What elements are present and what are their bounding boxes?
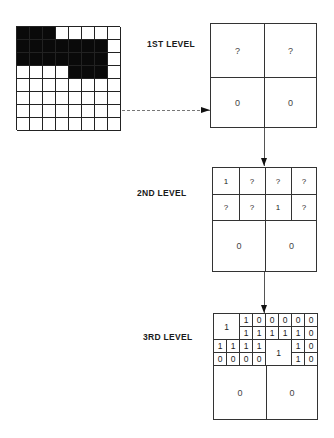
image-pixel [56, 79, 69, 92]
l3-cell: 1 [227, 340, 240, 353]
level-1-label: 1ST LEVEL [147, 39, 195, 49]
l3-cell: 0 [305, 353, 317, 366]
image-pixel [56, 40, 69, 53]
image-pixel [30, 66, 43, 79]
image-pixel [17, 40, 30, 53]
image-pixel [82, 40, 95, 53]
image-pixel [56, 105, 69, 118]
image-pixel [108, 66, 121, 79]
image-pixel [43, 27, 56, 40]
l1-cell-se: 0 [265, 78, 316, 127]
image-pixel [82, 79, 95, 92]
image-pixel [108, 105, 121, 118]
image-pixel [17, 105, 30, 118]
level-3-label: 3RD LEVEL [143, 332, 192, 342]
l2-cell-se: 0 [266, 220, 317, 271]
l3-cell: 0 [253, 353, 266, 366]
image-pixel [82, 118, 95, 131]
image-pixel [95, 66, 108, 79]
image-pixel [56, 66, 69, 79]
image-pixel [69, 105, 82, 118]
image-pixel [108, 27, 121, 40]
l2-cell: ? [265, 168, 291, 194]
image-pixel [56, 27, 69, 40]
image-pixel [95, 118, 108, 131]
image-pixel [30, 27, 43, 40]
image-pixel [17, 27, 30, 40]
image-pixel [17, 118, 30, 131]
image-pixel [95, 27, 108, 40]
l3-cell: 1 [279, 327, 292, 340]
l3-cell: 0 [292, 314, 305, 327]
l1-cell-nw: ? [211, 24, 264, 77]
l3-cell: 0 [240, 353, 253, 366]
image-pixel [30, 79, 43, 92]
image-pixel [43, 66, 56, 79]
l3-merged-cell: 1 [266, 340, 292, 366]
l2-cell: ? [239, 194, 265, 220]
image-pixel [108, 118, 121, 131]
l3-cell: 1 [292, 327, 305, 340]
l3-cell: 0 [279, 314, 292, 327]
l3-cell: 1 [240, 327, 253, 340]
level-1-quadtree: ? ? 0 0 [210, 23, 317, 128]
image-pixel [69, 118, 82, 131]
l3-cell: 1 [253, 340, 266, 353]
image-pixel [43, 40, 56, 53]
l3-cell: 1 [240, 314, 253, 327]
image-pixel [108, 40, 121, 53]
l3-cell: 0 [305, 327, 317, 340]
l3-cell: 1 [266, 327, 279, 340]
level-2-quadtree: 1 ? ? ? ? ? 1 ? 0 0 [212, 167, 317, 272]
image-pixel [69, 40, 82, 53]
image-pixel [69, 53, 82, 66]
level-2-label: 2ND LEVEL [137, 188, 186, 198]
image-pixel [82, 105, 95, 118]
level-3-quadtree: 1 1 1 0 1 1 0 0 1 1 0 0 1 0 1 1 0 0 1 1 … [213, 313, 318, 420]
image-pixel [69, 27, 82, 40]
image-pixel [69, 79, 82, 92]
arrow-down-icon [264, 128, 265, 166]
l3-cell: 0 [305, 314, 317, 327]
arrow-right-icon [122, 110, 210, 111]
image-pixel [108, 79, 121, 92]
image-pixel [82, 66, 95, 79]
l3-cell: 1 [214, 340, 227, 353]
l1-cell-sw: 0 [211, 78, 264, 127]
image-pixel [82, 53, 95, 66]
l3-cell: 0 [305, 340, 317, 353]
image-pixel [43, 105, 56, 118]
l3-cell: 0 [266, 314, 279, 327]
image-pixel [43, 79, 56, 92]
image-pixel [30, 40, 43, 53]
image-pixel [17, 79, 30, 92]
image-pixel [95, 92, 108, 105]
binary-image-grid [16, 26, 120, 130]
image-pixel [95, 53, 108, 66]
l2-cell: ? [213, 194, 239, 220]
l3-merged-cell: 1 [214, 314, 240, 340]
image-pixel [17, 53, 30, 66]
image-pixel [69, 92, 82, 105]
l3-cell: 0 [227, 353, 240, 366]
image-pixel [69, 66, 82, 79]
l2-cell: 1 [213, 168, 239, 194]
image-pixel [56, 92, 69, 105]
image-pixel [30, 105, 43, 118]
image-pixel [108, 92, 121, 105]
l2-cell: ? [239, 168, 265, 194]
l3-cell: 1 [253, 327, 266, 340]
image-pixel [30, 53, 43, 66]
l3-cell: 0 [253, 314, 266, 327]
image-pixel [95, 105, 108, 118]
l3-cell-sw: 0 [214, 366, 266, 419]
image-pixel [17, 66, 30, 79]
l3-cell: 0 [214, 353, 227, 366]
image-pixel [43, 118, 56, 131]
image-pixel [30, 118, 43, 131]
l2-cell-sw: 0 [213, 220, 265, 271]
image-pixel [56, 118, 69, 131]
image-pixel [95, 79, 108, 92]
l1-cell-ne: ? [265, 24, 316, 77]
image-pixel [82, 92, 95, 105]
